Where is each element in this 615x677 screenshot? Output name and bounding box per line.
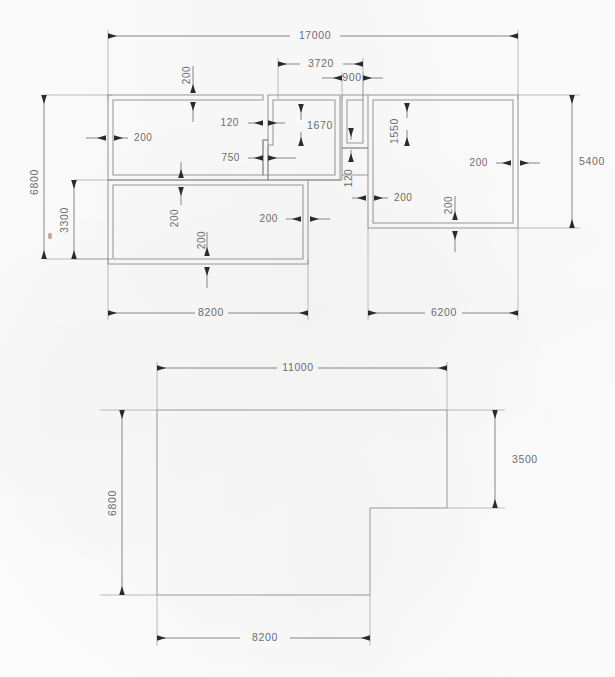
- dim-6200: 6200: [368, 306, 518, 318]
- wall-label-top-left: 200: [181, 66, 192, 85]
- dim-label-closet-width: 900: [342, 71, 361, 83]
- lower-extension-lines: [100, 362, 505, 646]
- upper-plan-group: 17000 3720 900 6800 3300 5400: [28, 29, 605, 320]
- room-upper-left: [108, 95, 268, 180]
- dim-3300: 3300: [58, 180, 74, 259]
- dim-900: 900: [322, 71, 383, 83]
- dim-label-overall-depth: 6800: [28, 169, 40, 195]
- dim-11000: 11000: [157, 361, 447, 373]
- dim-label-overall-length: 17000: [299, 29, 331, 41]
- dim-3500: 3500: [495, 410, 538, 508]
- wall-label-right-left: 200: [394, 192, 413, 203]
- wall-label-mid-horiz: 200: [169, 209, 180, 228]
- room-middle: [263, 95, 340, 180]
- technical-drawing-svg: .wall { fill:none; stroke:#9a9a9a; strok…: [0, 0, 615, 677]
- dim-label-left-block-length: 8200: [198, 306, 224, 318]
- dim-750: 750: [222, 152, 297, 163]
- dim-label-jog-width-2: 120: [343, 169, 354, 188]
- dim-1670: 1670: [301, 104, 333, 146]
- wall-label-mid-lower: 200: [196, 231, 207, 250]
- dim-label-step-length: 750: [222, 152, 241, 163]
- dim-label-right-upper-depth: 1550: [388, 118, 400, 144]
- wall-label-right-bottom: 200: [443, 196, 454, 215]
- dim-1550: 1550: [388, 103, 407, 146]
- drawing-canvas: .wall { fill:none; stroke:#9a9a9a; strok…: [0, 0, 615, 677]
- dim-6800-upper: 6800: [28, 95, 44, 259]
- dim-6800-lower: 6800: [106, 410, 122, 595]
- dim-label-lower-left-depth: 3300: [58, 207, 70, 233]
- dim-label-jog-width: 120: [221, 117, 240, 128]
- dim-label-top-length: 11000: [282, 361, 313, 373]
- dim-120-mid: 120: [221, 117, 286, 128]
- lower-plan-group: 11000 3500 6800 8200: [100, 361, 538, 646]
- dim-3720: 3720: [278, 57, 363, 69]
- dim-8200-lower: 8200: [157, 631, 370, 643]
- dim-8200-upper: 8200: [108, 306, 308, 318]
- dim-5400: 5400: [572, 95, 605, 228]
- scan-artifact-speck: [48, 233, 52, 239]
- closet-small: [342, 95, 368, 148]
- mid-bottom-connector: [308, 175, 342, 180]
- dim-label-right-block-length: 6200: [431, 306, 457, 318]
- wall-thickness-callouts: 200 200 200 200 200 200 200: [86, 66, 540, 288]
- dim-label-left-depth-lower: 6800: [106, 490, 118, 516]
- dim-17000: 17000: [108, 29, 518, 41]
- wall-label-left: 200: [134, 132, 153, 143]
- dim-120-closet: 120: [343, 128, 354, 187]
- dim-label-bottom-length-lower: 8200: [252, 631, 278, 643]
- dim-label-upper-mid-depth: 1670: [307, 119, 333, 131]
- dim-label-middle-offset: 3720: [308, 57, 334, 69]
- dim-label-right-depth-lower: 3500: [512, 453, 538, 465]
- wall-label-right-right: 200: [470, 157, 489, 168]
- room-lower-left: [108, 180, 308, 264]
- dim-label-right-depth: 5400: [579, 155, 605, 167]
- wall-label-lowleft-right: 200: [260, 213, 279, 224]
- lower-outline: [157, 410, 447, 595]
